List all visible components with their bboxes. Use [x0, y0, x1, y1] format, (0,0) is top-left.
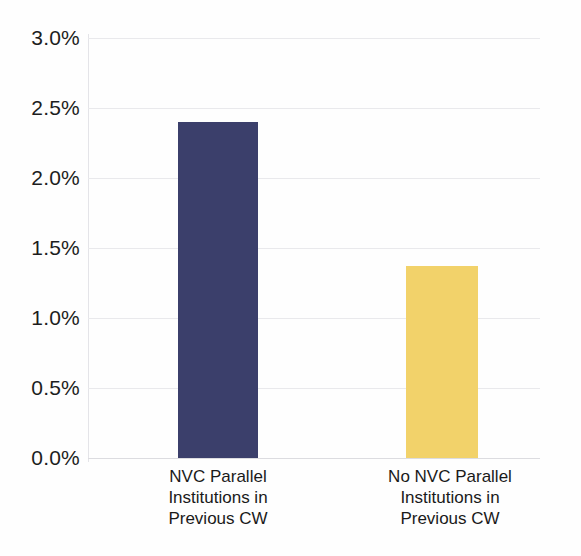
y-axis-tick-label: 0.5% — [6, 376, 80, 400]
bar-fill — [178, 122, 258, 458]
y-axis-tick-label: 2.5% — [6, 96, 80, 120]
y-axis-tick-label: 2.0% — [6, 166, 80, 190]
y-axis-tick-label: 1.0% — [6, 306, 80, 330]
y-axis-tick-label: 1.5% — [6, 236, 80, 260]
bar-no-nvc-parallel-institutions — [406, 266, 478, 458]
bar-fill — [406, 266, 478, 458]
x-axis-category-label: No NVC Parallel Institutions in Previous… — [348, 466, 552, 529]
y-axis-tick-labels: 0.0%0.5%1.0%1.5%2.0%2.5%3.0% — [0, 0, 80, 556]
x-axis-category-label: NVC Parallel Institutions in Previous CW — [128, 466, 308, 529]
y-axis-tick-label: 3.0% — [6, 26, 80, 50]
bar-chart: 0.0%0.5%1.0%1.5%2.0%2.5%3.0% NVC Paralle… — [0, 0, 581, 556]
bar-nvc-parallel-institutions — [178, 122, 258, 458]
plot-area — [88, 38, 540, 458]
gridline — [88, 458, 540, 459]
y-axis-tick-label: 0.0% — [6, 446, 80, 470]
